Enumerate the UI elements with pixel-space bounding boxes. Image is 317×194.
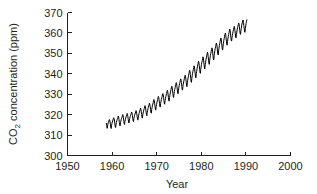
x-tick-label-2000: 2000 bbox=[278, 160, 302, 172]
y-axis-tick-labels: 300310320330340350360370 bbox=[44, 7, 62, 162]
x-axis-tick-labels: 195019601970198019902000 bbox=[55, 160, 302, 172]
x-tick-label-1950: 1950 bbox=[55, 160, 79, 172]
x-tick-label-1970: 1970 bbox=[144, 160, 168, 172]
co2-series-line bbox=[106, 20, 246, 129]
y-axis-title-prefix: CO bbox=[7, 128, 19, 145]
x-axis-title: Year bbox=[166, 178, 189, 190]
y-tick-label-340: 340 bbox=[44, 68, 62, 80]
chart-svg: 300310320330340350360370 195019601970198… bbox=[0, 0, 317, 194]
y-tick-label-330: 330 bbox=[44, 88, 62, 100]
y-axis-title-suffix: concentration (ppm) bbox=[7, 23, 19, 124]
y-tick-label-320: 320 bbox=[44, 109, 62, 121]
axes-group: 300310320330340350360370 195019601970198… bbox=[44, 7, 303, 172]
y-tick-label-310: 310 bbox=[44, 129, 62, 141]
x-tick-label-1960: 1960 bbox=[100, 160, 124, 172]
y-tick-label-370: 370 bbox=[44, 7, 62, 19]
y-tick-label-350: 350 bbox=[44, 47, 62, 59]
axis-frame bbox=[68, 13, 291, 156]
y-tick-label-360: 360 bbox=[44, 27, 62, 39]
co2-chart-figure: 300310320330340350360370 195019601970198… bbox=[0, 0, 317, 194]
x-tick-label-1980: 1980 bbox=[189, 160, 213, 172]
data-group bbox=[106, 20, 246, 129]
x-tick-label-1990: 1990 bbox=[234, 160, 258, 172]
y-axis-title: CO2 concentration (ppm) bbox=[7, 23, 22, 145]
